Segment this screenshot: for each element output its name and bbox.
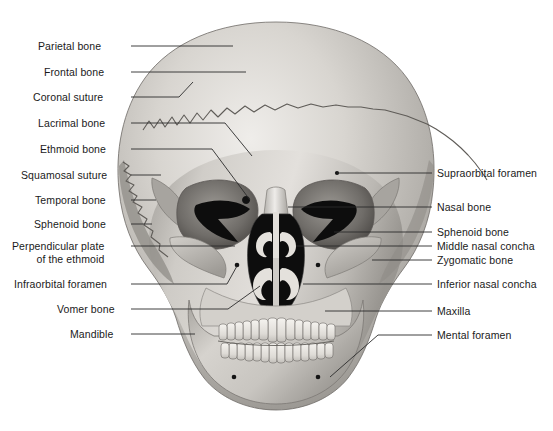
label-text: Zygomatic bone — [437, 254, 513, 267]
label-text: Middle nasal concha — [437, 240, 535, 253]
label-nasal-bone: Nasal bone — [437, 201, 491, 214]
label-squamosal-suture: Squamosal suture — [21, 169, 107, 182]
label-infraorbital-foramen: Infraorbital foramen — [14, 278, 107, 291]
label-mental-foramen: Mental foramen — [437, 329, 511, 342]
label-sphenoid-bone: Sphenoid bone — [437, 226, 509, 239]
label-text: Sphenoid bone — [437, 226, 509, 239]
label-text: Infraorbital foramen — [14, 278, 107, 291]
label-coronal-suture: Coronal suture — [33, 91, 103, 104]
infraorbital-foramen-right — [316, 263, 321, 268]
label-frontal-bone: Frontal bone — [44, 66, 104, 79]
label-text: Sphenoid bone — [34, 218, 106, 231]
nasal-bone — [264, 187, 288, 214]
label-ethmoid-bone: Ethmoid bone — [40, 143, 106, 156]
skull-illustration — [0, 0, 553, 431]
label-parietal-bone: Parietal bone — [38, 40, 101, 53]
label-supraorbital-foramen: Supraorbital foramen — [437, 167, 537, 180]
label-text: Temporal bone — [35, 194, 106, 207]
label-zygomatic-bone: Zygomatic bone — [437, 254, 513, 267]
lacrimal-bone-left — [242, 196, 250, 204]
label-text: Ethmoid bone — [40, 143, 106, 156]
label-text-line2: of the ethmoid — [12, 253, 104, 266]
label-text: Coronal suture — [33, 91, 103, 104]
label-sphenoid-bone: Sphenoid bone — [34, 218, 106, 231]
label-perpendicular-plate: Perpendicular plateof the ethmoid — [12, 240, 104, 265]
label-text: Squamosal suture — [21, 169, 107, 182]
label-mandible: Mandible — [70, 328, 113, 341]
perpendicular-plate-of-ethmoid — [273, 212, 279, 258]
label-text: Inferior nasal concha — [437, 278, 537, 291]
label-text: Maxilla — [437, 305, 470, 318]
skull-diagram-figure: Parietal boneFrontal boneCoronal sutureL… — [0, 0, 553, 431]
vomer-bone — [273, 258, 279, 314]
label-text: Parietal bone — [38, 40, 101, 53]
mental-foramen-left — [232, 375, 237, 380]
label-text: Perpendicular plate — [12, 240, 104, 253]
label-middle-nasal-concha: Middle nasal concha — [437, 240, 535, 253]
label-text: Mental foramen — [437, 329, 511, 342]
label-inferior-nasal-concha: Inferior nasal concha — [437, 278, 537, 291]
label-text: Supraorbital foramen — [437, 167, 537, 180]
label-temporal-bone: Temporal bone — [35, 194, 106, 207]
label-vomer-bone: Vomer bone — [57, 303, 115, 316]
label-text: Lacrimal bone — [38, 117, 105, 130]
label-text: Mandible — [70, 328, 113, 341]
label-text: Frontal bone — [44, 66, 104, 79]
label-maxilla: Maxilla — [437, 305, 470, 318]
cranium-group — [118, 22, 487, 410]
mental-foramen-right — [316, 375, 321, 380]
label-text: Vomer bone — [57, 303, 115, 316]
label-text: Nasal bone — [437, 201, 491, 214]
label-lacrimal-bone: Lacrimal bone — [38, 117, 105, 130]
